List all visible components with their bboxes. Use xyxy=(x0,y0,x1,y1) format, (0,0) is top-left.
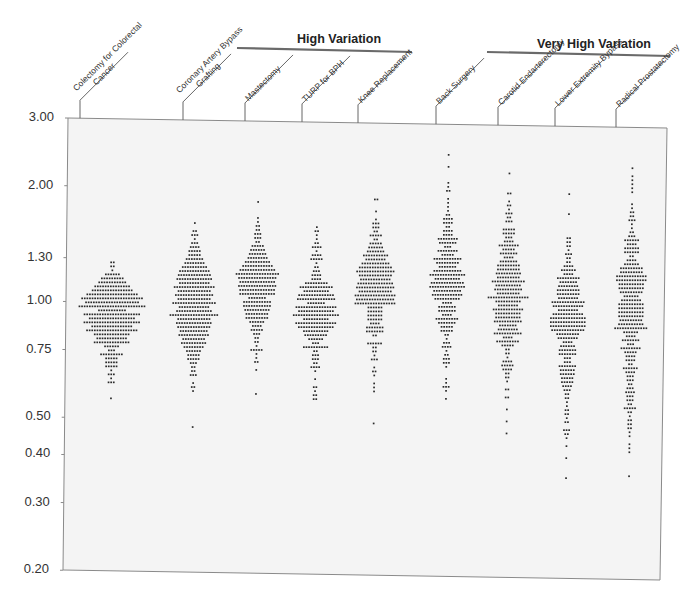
y-tick-label: 2.00 xyxy=(13,178,53,192)
y-tick-label: 0.40 xyxy=(10,446,50,460)
y-tick-label: 1.00 xyxy=(12,293,52,307)
y-tick-label: 0.30 xyxy=(10,495,50,509)
group-rule-very-high-variation xyxy=(487,52,670,56)
chart-figure: 3.002.001.301.000.750.500.400.300.20 Hig… xyxy=(0,0,700,608)
y-tick-label: 0.75 xyxy=(11,342,51,356)
y-tick-label: 0.50 xyxy=(11,409,51,423)
plot-area xyxy=(63,118,667,580)
y-tick-label: 0.20 xyxy=(9,562,49,576)
y-tick-label: 1.30 xyxy=(12,250,52,264)
group-rule-high-variation xyxy=(237,48,412,52)
group-title-high-variation: High Variation xyxy=(297,32,381,46)
plot-canvas xyxy=(0,0,700,608)
y-tick-label: 3.00 xyxy=(14,110,54,124)
